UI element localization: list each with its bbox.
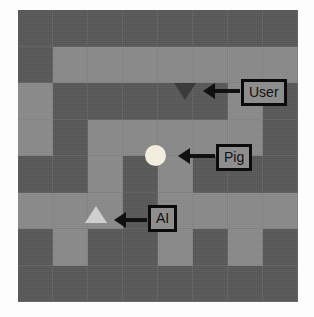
grid-cell-r2-c3 <box>123 83 158 120</box>
annotation-arrow-pig <box>178 149 215 163</box>
grid-cell-r1-c2 <box>88 47 123 84</box>
screenshot-canvas: User Pig AI <box>0 0 314 317</box>
grid-cell-r6-c1 <box>53 229 88 266</box>
grid-cell-r1-c1 <box>53 47 88 84</box>
grid-cell-r1-c0 <box>18 47 53 84</box>
grid-cell-r2-c2 <box>88 83 123 120</box>
grid-cell-r5-c5 <box>193 193 228 230</box>
grid-cell-r3-c7 <box>263 120 298 157</box>
grid-cell-r6-c7 <box>263 229 298 266</box>
grid-cell-r2-c0 <box>18 83 53 120</box>
grid-cell-r1-c6 <box>228 47 263 84</box>
grid-cell-r6-c0 <box>18 229 53 266</box>
grid-cell-r5-c7 <box>263 193 298 230</box>
arrow-head-icon <box>203 83 215 99</box>
grid-cell-r7-c2 <box>88 266 123 303</box>
arrow-head-icon <box>114 212 126 228</box>
grid-cell-r0-c5 <box>193 10 228 47</box>
grid-cell-r1-c7 <box>263 47 298 84</box>
marker-ai <box>85 206 107 223</box>
grid-cell-r1-c4 <box>158 47 193 84</box>
grid-cell-r0-c7 <box>263 10 298 47</box>
arrow-head-icon <box>178 148 190 164</box>
grid-cell-r3-c2 <box>88 120 123 157</box>
grid-cell-r4-c0 <box>18 156 53 193</box>
annotation-arrow-ai <box>114 213 147 227</box>
annotation-label-pig: Pig <box>216 144 252 171</box>
grid-cell-r6-c4 <box>158 229 193 266</box>
marker-pig <box>145 145 166 166</box>
grid-cell-r1-c3 <box>123 47 158 84</box>
grid-cell-r6-c3 <box>123 229 158 266</box>
grid-cell-r7-c5 <box>193 266 228 303</box>
grid-cell-r5-c0 <box>18 193 53 230</box>
grid-cell-r6-c5 <box>193 229 228 266</box>
grid-cell-r6-c2 <box>88 229 123 266</box>
grid-cell-r1-c5 <box>193 47 228 84</box>
grid-cell-r5-c6 <box>228 193 263 230</box>
grid-cell-r0-c2 <box>88 10 123 47</box>
grid-cell-r7-c3 <box>123 266 158 303</box>
grid-cell-r6-c6 <box>228 229 263 266</box>
grid-cell-r0-c6 <box>228 10 263 47</box>
grid-cell-r7-c1 <box>53 266 88 303</box>
grid-cell-r4-c1 <box>53 156 88 193</box>
grid-cell-r0-c1 <box>53 10 88 47</box>
grid-cell-r4-c2 <box>88 156 123 193</box>
grid-cell-r7-c7 <box>263 266 298 303</box>
arrow-shaft <box>190 154 215 158</box>
grid-cell-r3-c1 <box>53 120 88 157</box>
annotation-label-ai: AI <box>148 205 177 232</box>
grid-cell-r0-c4 <box>158 10 193 47</box>
grid-cell-r3-c0 <box>18 120 53 157</box>
annotation-label-user: User <box>241 79 287 106</box>
grid-cell-r5-c1 <box>53 193 88 230</box>
grid-cell-r0-c3 <box>123 10 158 47</box>
grid-cell-r7-c6 <box>228 266 263 303</box>
grid-cell-r4-c7 <box>263 156 298 193</box>
annotation-arrow-user <box>203 84 240 98</box>
marker-user <box>174 83 196 100</box>
grid-cell-r0-c0 <box>18 10 53 47</box>
grid-cell-r7-c0 <box>18 266 53 303</box>
grid-cell-r2-c1 <box>53 83 88 120</box>
arrow-shaft <box>215 89 240 93</box>
arrow-shaft <box>126 218 147 222</box>
grid-cell-r7-c4 <box>158 266 193 303</box>
